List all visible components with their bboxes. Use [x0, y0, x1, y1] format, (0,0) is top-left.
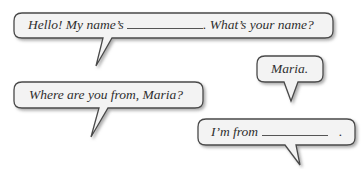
- answer-origin-text: I’m from .: [211, 124, 342, 140]
- greeting-text: Hello! My name’s . What’s your name?: [28, 17, 314, 33]
- greeting-text-after: . What’s your name?: [203, 17, 314, 32]
- question-origin-text: Where are you from, Maria?: [29, 87, 183, 103]
- answer-name-text: Maria.: [271, 61, 308, 77]
- answer-origin-text-after: .: [339, 124, 342, 139]
- name-blank[interactable]: [127, 17, 203, 29]
- answer-origin-text-before: I’m from: [211, 124, 258, 139]
- origin-blank[interactable]: [262, 124, 328, 136]
- greeting-text-before: Hello! My name’s: [28, 17, 124, 32]
